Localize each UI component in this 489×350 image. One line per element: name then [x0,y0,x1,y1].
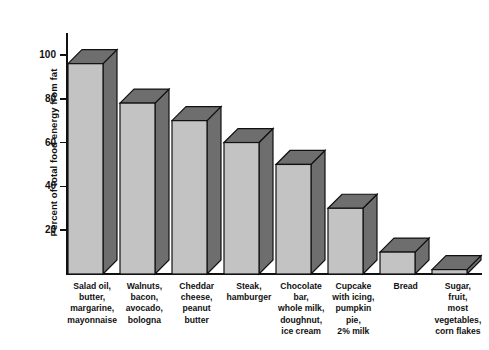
bar-2 [120,89,169,274]
y-axis-tick-mark [60,54,68,56]
y-axis-line [66,33,68,275]
y-axis-tick-label: 20 [24,224,56,236]
bar-top-face [68,50,117,64]
bar-top-face [328,194,377,208]
bar-top-face [172,107,221,121]
x-axis-category-label-1: Salad oil, butter, margarine, mayonnaise [66,281,118,349]
x-axis-category-label-2: Walnuts, bacon, avocado, bologna [118,281,170,349]
x-axis-category-label-6: Cupcake with icing, pumpkin pie, 2% milk [327,281,379,349]
x-axis-category-label-4: Steak, hamburger [223,281,275,349]
bar-side-face [311,150,325,274]
bar-top-face [432,256,481,270]
y-axis-tick-mark [60,98,68,100]
y-axis-tick-label: 100 [24,49,56,61]
bar-side-face [363,194,377,274]
bar-6 [328,194,377,274]
bar-top-face [224,129,273,143]
y-axis-tick-mark [60,142,68,144]
y-axis-tick-label: 80 [24,93,56,105]
bar-side-face [207,107,221,274]
bar-front-face [120,103,155,274]
y-axis-tick-label-text: 80 [28,93,56,104]
bar-top-face [276,150,325,164]
bar-side-face [103,50,117,274]
bar-5 [276,150,325,274]
y-axis-tick-label: 40 [24,180,56,192]
bar-front-face [68,64,103,274]
y-axis-tick-mark [60,229,68,231]
y-axis-tick-label-text: 20 [28,224,56,235]
bar-side-face [259,129,273,274]
bar-top-face [380,238,429,252]
x-axis-line [66,273,482,275]
x-axis-category-label-3: Cheddar cheese, peanut butter [171,281,223,349]
x-axis-category-label-5: Chocolate bar, whole milk, doughnut, ice… [275,281,327,349]
bar-front-face [224,143,259,274]
bar-side-face [467,256,481,274]
bar-side-face [415,238,429,274]
x-axis-category-label-8: Sugar, fruit, most vegetables, corn flak… [432,281,484,349]
x-axis-category-labels: Salad oil, butter, margarine, mayonnaise… [66,281,484,349]
bar-front-face [276,164,311,274]
y-axis-title: Percent of total food energy from fat [48,28,59,278]
y-axis-tick-label: 60 [24,137,56,149]
bar-1 [68,50,117,274]
chart-figure: Percent of total food energy from fat 20… [0,0,489,350]
bar-top-face [120,89,169,103]
bar-3 [172,107,221,274]
y-axis-tick-label-text: 100 [28,49,56,60]
y-axis-tick-label-text: 60 [28,137,56,148]
bar-4 [224,129,273,274]
bar-7 [380,238,429,274]
bar-front-face [172,121,207,274]
x-axis-category-label-7: Bread [380,281,432,349]
bar-front-face [328,208,363,274]
y-axis-tick-label-text: 40 [28,180,56,191]
bar-side-face [155,89,169,274]
y-axis-tick-mark [60,186,68,188]
bar-front-face [380,252,415,274]
bar-8 [432,256,481,274]
